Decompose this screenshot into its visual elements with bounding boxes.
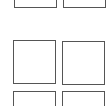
thumbnail-tile[interactable] [14,0,57,8]
thumbnail-tile[interactable] [13,91,56,106]
thumbnail-tile[interactable] [13,40,56,84]
thumbnail-tile[interactable] [62,41,105,85]
thumbnail-tile[interactable] [62,91,105,106]
thumbnail-tile[interactable] [63,0,106,8]
